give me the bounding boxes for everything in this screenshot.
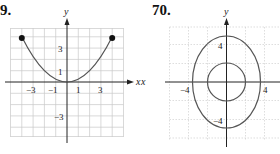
left-y-axis-label: y (63, 6, 69, 17)
right-x-tick: −4 (180, 85, 190, 95)
right-x-axis-label: x (140, 76, 146, 87)
left-y-tick: 1 (58, 67, 63, 77)
right-y-tick: 4 (218, 41, 223, 51)
left-graph: x y −3 −1 1 3 3 1 −3 (5, 6, 141, 143)
endpoint-dot-right (109, 35, 115, 41)
left-y-tick: −3 (54, 112, 64, 122)
right-y-axis-label: y (223, 6, 229, 17)
left-y-arrow-icon (65, 18, 70, 25)
left-x-tick: −1 (48, 85, 58, 95)
left-y-tick: 3 (58, 44, 63, 54)
right-y-tick: −4 (213, 116, 223, 126)
right-y-arrow-icon (224, 18, 229, 25)
endpoint-dot-left (19, 35, 25, 41)
right-graph: x y −4 4 4 −4 (140, 6, 280, 147)
left-x-tick: −3 (26, 85, 36, 95)
left-x-tick: 1 (76, 85, 81, 95)
right-x-tick: 4 (263, 85, 268, 95)
graphs: x y −3 −1 1 3 3 1 −3 (0, 0, 280, 154)
left-x-tick: 3 (98, 85, 103, 95)
right-grid (170, 27, 280, 140)
left-x-arrow-icon (127, 80, 134, 85)
